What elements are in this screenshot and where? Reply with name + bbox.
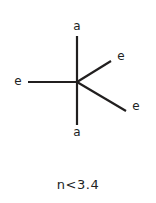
bond-label-axial-top: a xyxy=(68,20,86,32)
figure-caption: n<3.4 xyxy=(0,177,156,192)
bond-label-equatorial-left: e xyxy=(9,75,27,87)
bond-geometry-figure: a a e e e n<3.4 xyxy=(0,0,156,203)
bond-label-equatorial-upper-right: e xyxy=(112,50,130,62)
bond-line-equatorial-lower-right xyxy=(77,82,126,111)
bond-line-equatorial-upper-right xyxy=(77,61,111,82)
bond-label-equatorial-lower-right: e xyxy=(127,100,145,112)
bond-label-axial-bottom: a xyxy=(68,126,86,138)
